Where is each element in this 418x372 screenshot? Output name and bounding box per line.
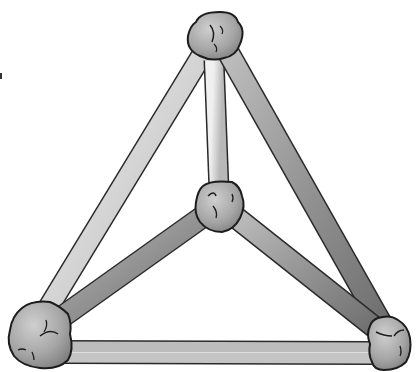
node-center: [196, 182, 244, 233]
tetrahedron-diagram: [0, 0, 418, 372]
edge-mark: [0, 73, 2, 79]
node-bottom-left: [9, 302, 72, 369]
node-bottom-right: [368, 316, 411, 370]
node-top: [188, 12, 243, 60]
rod-top-center: [214, 60, 219, 190]
rod-bottom-left-bottom-right: [60, 352, 372, 353]
tetrahedron-svg: [0, 0, 418, 372]
rod-top-bottom-right: [228, 52, 385, 330]
